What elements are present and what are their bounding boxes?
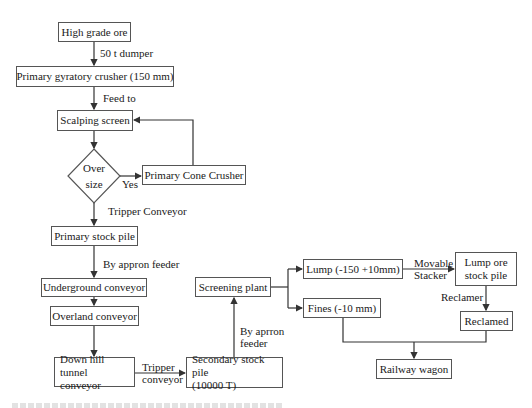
downhill-line1: Down hill tunnel: [60, 353, 134, 379]
node-underground-conveyor: Underground conveyor: [41, 278, 147, 297]
secondary-line2: (10000 T): [192, 379, 282, 392]
label-tripper-conveyor: Tripper Conveyor: [108, 205, 187, 217]
node-oversize-decision: Over size: [74, 160, 114, 192]
apron2-line2: feeder: [240, 337, 284, 349]
apron2-line1: By aprron: [240, 325, 284, 337]
secondary-line1: Secondary stock pile: [192, 353, 282, 379]
node-secondary-stock-pile: Secondary stock pile (10000 T): [186, 357, 283, 388]
node-railway-wagon: Railway wagon: [376, 359, 452, 379]
node-high-grade-ore: High grade ore: [58, 22, 131, 42]
lump-ore-line1: Lump ore: [464, 256, 507, 269]
node-primary-stock-pile: Primary stock pile: [51, 226, 138, 246]
oversize-line2: size: [74, 176, 114, 192]
label-feed-to: Feed to: [103, 92, 136, 104]
stacker-line1: Movable: [414, 257, 453, 269]
label-aprron-feeder-2: By aprron feeder: [240, 325, 284, 349]
node-downhill-tunnel-conveyor: Down hill tunnel conveyor: [54, 357, 135, 387]
label-movable-stacker: Movable Stacker: [414, 257, 453, 281]
tripper2-line2: conveyor: [142, 373, 183, 385]
node-primary-gyratory-crusher: Primary gyratory crusher (150 mm): [16, 66, 174, 87]
label-reclamer: Reclamer: [441, 291, 483, 303]
label-tripper-conveyor-2: Tripper conveyor: [142, 361, 183, 385]
tripper2-line1: Tripper: [142, 361, 183, 373]
downhill-line2: conveyor: [60, 379, 134, 392]
label-50t-dumper: 50 t dumper: [100, 47, 153, 59]
node-lump-ore-stock-pile: Lump ore stock pile: [455, 252, 517, 286]
stacker-line2: Stacker: [414, 269, 453, 281]
oversize-line1: Over: [74, 160, 114, 176]
node-reclamed: Reclamed: [460, 311, 513, 331]
lump-ore-line2: stock pile: [464, 269, 507, 282]
node-overland-conveyor: Overland conveyor: [50, 306, 139, 326]
label-yes: Yes: [122, 178, 138, 190]
node-scalping-screen: Scalping screen: [57, 110, 133, 131]
node-primary-cone-crusher: Primary Cone Crusher: [142, 165, 246, 185]
node-lump: Lump (-150 +10mm): [303, 259, 403, 279]
figure-caption-cropped: [12, 403, 282, 408]
node-screening-plant: Screening plant: [195, 277, 271, 297]
node-fines: Fines (-10 mm): [303, 298, 381, 318]
label-appron-feeder: By appron feeder: [103, 258, 179, 270]
